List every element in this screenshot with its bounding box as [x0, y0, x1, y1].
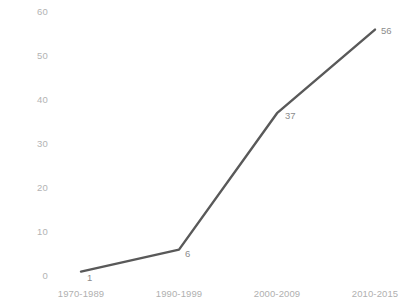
x-tick-label-4: 2010-2015 [352, 288, 398, 300]
data-label-1: 1 [87, 272, 92, 283]
data-label-2: 6 [185, 248, 190, 259]
data-series-line [81, 30, 375, 272]
x-axis: 1970-1989 1990-1999 2000-2009 2010-2015 [0, 288, 405, 304]
plot-area [0, 0, 405, 307]
line-chart: 60 50 40 30 20 10 0 1 6 37 56 1970-1989 … [0, 0, 405, 307]
data-label-3: 37 [285, 110, 296, 121]
x-tick-label-3: 2000-2009 [254, 288, 300, 300]
data-label-4: 56 [381, 25, 392, 36]
x-tick-label-1: 1970-1989 [58, 288, 104, 300]
x-tick-label-2: 1990-1999 [156, 288, 202, 300]
